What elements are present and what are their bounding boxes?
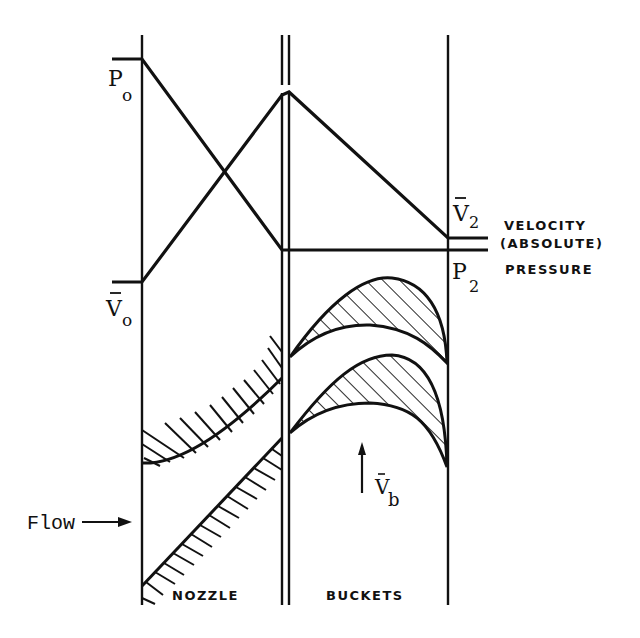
v2-label: V bbox=[452, 201, 470, 226]
nozzle-label: NOZZLE bbox=[172, 588, 239, 603]
v0-label: V bbox=[105, 296, 123, 321]
velocity-legend-line1: VELOCITY bbox=[504, 218, 586, 233]
v0-subscript: o bbox=[122, 310, 132, 330]
p2-label: P bbox=[452, 259, 467, 284]
bucket-blade-lower bbox=[290, 355, 447, 467]
pressure-legend: PRESSURE bbox=[505, 262, 593, 277]
buckets-label: BUCKETS bbox=[326, 588, 404, 603]
velocity-curve bbox=[112, 92, 488, 282]
p2-subscript: 2 bbox=[469, 277, 479, 296]
flow-arrow bbox=[82, 517, 132, 527]
nozzle-upper-wall bbox=[142, 336, 282, 466]
nozzle-lower-wall bbox=[142, 438, 282, 604]
velocity-legend-line2: (ABSOLUTE) bbox=[500, 236, 603, 251]
vb-subscript: b bbox=[388, 489, 400, 510]
p0-label: P bbox=[108, 66, 123, 91]
bucket-velocity-arrow bbox=[358, 442, 366, 493]
v2-subscript: 2 bbox=[469, 213, 479, 232]
flow-label: Flow bbox=[27, 512, 75, 535]
turbine-stage-diagram: P o V o V 2 P 2 VELOCITY (ABSOLUTE) PRES… bbox=[0, 0, 640, 638]
bucket-blade-upper bbox=[290, 278, 447, 363]
p0-subscript: o bbox=[122, 85, 132, 105]
